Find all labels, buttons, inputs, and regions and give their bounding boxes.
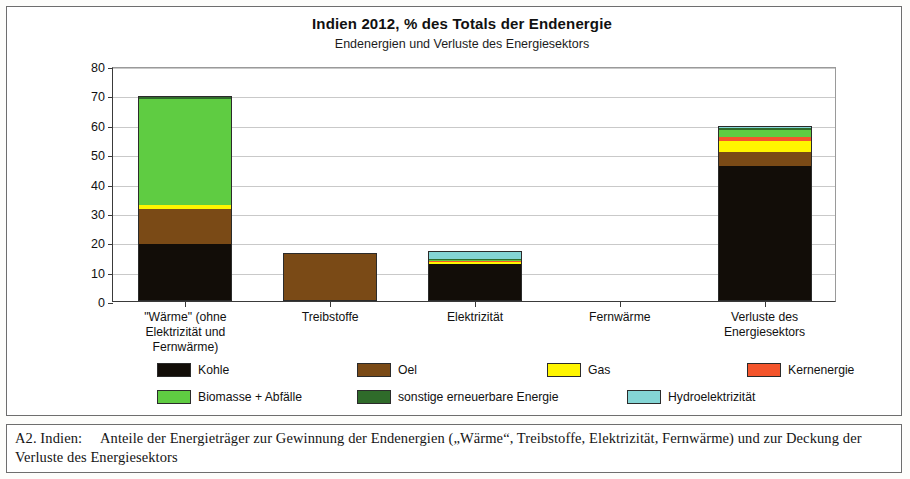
- legend-label: Oel: [398, 363, 417, 377]
- plot-wrapper: 100% = 476 Mtoe 01020304050607080 "Wärme…: [7, 7, 910, 423]
- x-tick-label: Fernwärme: [540, 310, 700, 325]
- legend-item[interactable]: Kohle: [157, 363, 229, 377]
- chart-legend: KohleOelGasKernenergie Biomasse + Abfäll…: [112, 362, 836, 405]
- legend-swatch-icon: [357, 390, 391, 404]
- y-tick-label: 20: [91, 237, 105, 251]
- x-tick-label-line: Elektrizität und: [105, 325, 265, 340]
- legend-swatch-icon: [357, 363, 391, 377]
- bar-segment: [139, 99, 231, 205]
- bar-category-column: Elektrizität: [403, 68, 548, 301]
- bar-segment: [139, 209, 231, 244]
- y-tick-label: 30: [91, 208, 105, 222]
- x-tick-label: Verluste desEnergiesektors: [685, 310, 845, 340]
- y-tick-label: 0: [98, 296, 105, 310]
- bar-category-column: Verluste desEnergiesektors: [692, 68, 837, 301]
- stacked-bar[interactable]: [718, 126, 812, 301]
- legend-swatch-icon: [547, 363, 581, 377]
- stacked-bar[interactable]: [283, 253, 377, 301]
- bar-segment: [139, 244, 231, 300]
- bar-segment: [284, 254, 376, 300]
- x-tick-mark: [475, 301, 476, 307]
- bars-layer: "Wärme" (ohneElektrizität undFernwärme)T…: [113, 68, 835, 301]
- y-tick-label: 40: [91, 179, 105, 193]
- x-tick-label: "Wärme" (ohneElektrizität undFernwärme): [105, 310, 265, 355]
- x-tick-mark: [185, 301, 186, 307]
- legend-item[interactable]: Kernenergie: [747, 363, 854, 377]
- x-tick-label: Elektrizität: [395, 310, 555, 325]
- y-tick-mark: [108, 303, 113, 304]
- legend-swatch-icon: [747, 363, 781, 377]
- x-tick-label: Treibstoffe: [250, 310, 410, 325]
- y-tick-label: 60: [91, 120, 105, 134]
- stacked-bar[interactable]: [138, 96, 232, 301]
- x-tick-label-line: Treibstoffe: [250, 310, 410, 325]
- figure-caption: A2. Indien: Anteile der Energieträger zu…: [15, 429, 893, 467]
- legend-row-primary: KohleOelGasKernenergie: [112, 362, 836, 378]
- legend-item[interactable]: Gas: [547, 363, 610, 377]
- y-tick-label: 10: [91, 267, 105, 281]
- bar-segment: [429, 252, 521, 259]
- legend-label: Gas: [588, 363, 610, 377]
- legend-label: sonstige erneuerbare Energie: [398, 390, 559, 404]
- x-tick-label-line: "Wärme" (ohne: [105, 310, 265, 325]
- caption-frame: A2. Indien: Anteile der Energieträger zu…: [6, 424, 902, 473]
- x-tick-label-line: Fernwärme: [540, 310, 700, 325]
- x-tick-label-line: Fernwärme): [105, 340, 265, 355]
- legend-item[interactable]: Hydroelektrizität: [627, 390, 755, 404]
- x-tick-label-line: Elektrizität: [395, 310, 555, 325]
- caption-body: Anteile der Energieträger zur Gewinnung …: [15, 430, 862, 465]
- legend-label: Kernenergie: [788, 363, 854, 377]
- legend-row-secondary: Biomasse + Abfällesonstige erneuerbare E…: [112, 389, 836, 405]
- chart-frame: Indien 2012, % des Totals der Endenergie…: [6, 6, 902, 416]
- legend-swatch-icon: [157, 390, 191, 404]
- legend-item[interactable]: Biomasse + Abfälle: [157, 390, 302, 404]
- legend-item[interactable]: sonstige erneuerbare Energie: [357, 390, 559, 404]
- bar-segment: [719, 130, 811, 137]
- legend-item[interactable]: Oel: [357, 363, 417, 377]
- legend-label: Biomasse + Abfälle: [198, 390, 302, 404]
- bar-segment: [719, 152, 811, 167]
- x-tick-mark: [330, 301, 331, 307]
- legend-label: Kohle: [198, 363, 229, 377]
- legend-swatch-icon: [627, 390, 661, 404]
- bar-segment: [719, 166, 811, 300]
- bar-category-column: Fernwärme: [547, 68, 692, 301]
- bar-category-column: Treibstoffe: [258, 68, 403, 301]
- stacked-bar[interactable]: [428, 251, 522, 301]
- figure-page: Indien 2012, % des Totals der Endenergie…: [0, 0, 910, 479]
- x-tick-label-line: Energiesektors: [685, 325, 845, 340]
- bar-category-column: "Wärme" (ohneElektrizität undFernwärme): [113, 68, 258, 301]
- x-tick-mark: [765, 301, 766, 307]
- plot-area: 100% = 476 Mtoe 01020304050607080 "Wärme…: [112, 67, 836, 302]
- caption-prefix: A2. Indien:: [15, 430, 82, 446]
- bar-segment: [429, 264, 521, 300]
- y-tick-label: 80: [91, 61, 105, 75]
- x-tick-mark: [620, 301, 621, 307]
- bar-segment: [719, 141, 811, 152]
- y-tick-label: 50: [91, 149, 105, 163]
- legend-swatch-icon: [157, 363, 191, 377]
- x-tick-label-line: Verluste des: [685, 310, 845, 325]
- y-tick-label: 70: [91, 90, 105, 104]
- legend-label: Hydroelektrizität: [668, 390, 755, 404]
